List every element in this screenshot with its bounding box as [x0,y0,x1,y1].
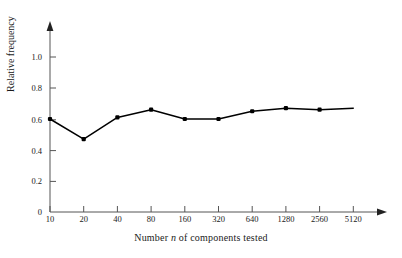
xtick-label-320: 320 [212,215,225,224]
data-point-marker [284,106,288,110]
y-axis-arrowhead [47,21,54,31]
y-axis-title: Relative frequency [5,78,16,92]
x-axis-title-before: Number [134,232,171,243]
y-axis-title-label: Relative frequency [5,78,16,92]
ytick-label-0-8: 0.8 [18,84,42,93]
xtick-label-5120: 5120 [345,215,362,224]
data-point-marker [250,109,254,113]
x-axis-ticks [50,206,353,212]
ytick-label-0: 0 [18,208,42,217]
xtick-label-640: 640 [246,215,259,224]
ytick-label-0-2: 0.2 [18,177,42,186]
xtick-label-2560: 2560 [311,215,328,224]
x-axis-arrowhead [377,209,387,216]
xtick-label-1280: 1280 [277,215,294,224]
chart-figure: 0 0.2 0.4 0.6 0.8 1.0 10 20 40 80 160 32… [0,0,402,258]
chart-plot-area [0,0,402,258]
data-point-marker [318,108,322,112]
data-point-marker [183,117,187,121]
ytick-label-0-6: 0.6 [18,116,42,125]
ytick-label-1-0: 1.0 [18,53,42,62]
x-axis-title: Number n of components tested [0,232,402,243]
xtick-label-160: 160 [178,215,191,224]
data-point-marker [82,137,86,141]
x-axis-title-after: of components tested [176,232,268,243]
data-series-line [50,108,353,139]
xtick-label-10: 10 [46,215,55,224]
data-point-marker [216,117,220,121]
xtick-label-80: 80 [147,215,156,224]
xtick-label-40: 40 [113,215,122,224]
xtick-label-20: 20 [79,215,88,224]
ytick-label-0-4: 0.4 [18,146,42,155]
data-point-marker [48,117,52,121]
data-point-marker [115,115,119,119]
data-point-marker [149,108,153,112]
